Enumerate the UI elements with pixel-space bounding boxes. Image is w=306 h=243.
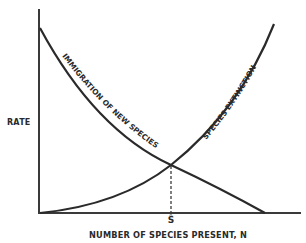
extinction-curve <box>40 24 274 213</box>
immigration-curve <box>40 28 265 213</box>
y-axis-label: RATE <box>7 118 30 127</box>
island-biogeography-diagram: IMMIGRATION OF NEW SPECIES SPECIES EXTIN… <box>0 0 306 243</box>
x-axis-label: NUMBER OF SPECIES PRESENT, N <box>89 230 247 240</box>
immigration-curve-label: IMMIGRATION OF NEW SPECIES <box>60 52 160 150</box>
extinction-curve-label: SPECIES EXTINCTION <box>201 64 258 142</box>
equilibrium-label: Ŝ <box>168 214 175 225</box>
